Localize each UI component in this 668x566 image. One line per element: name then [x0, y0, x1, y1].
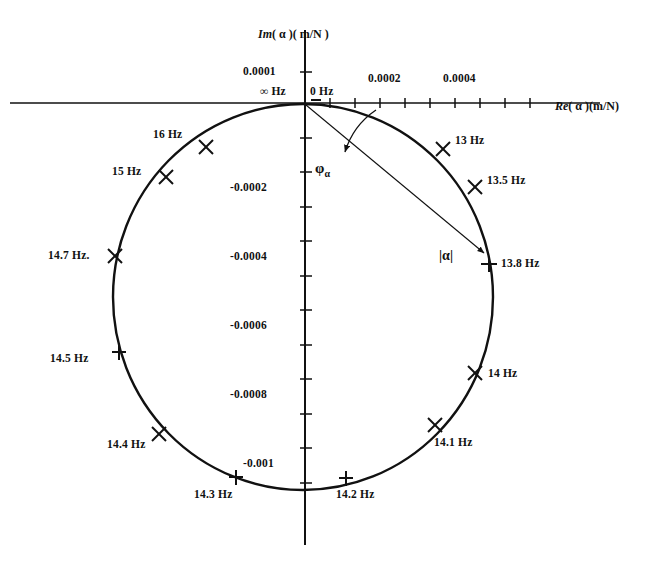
figure-canvas: Im( α )( m/N ) Re( α )(m/N) 0.0001 -0.00…: [0, 0, 668, 566]
re-axis-paren: ( α ): [568, 99, 589, 113]
imaginary-axis: [300, 30, 312, 545]
phase-phi-symbol: φ: [315, 160, 324, 176]
im-axis-units: ( m/N ): [293, 27, 329, 41]
im-axis-italic: Im: [258, 27, 272, 41]
frequency-tick-marks: [108, 100, 497, 486]
infinite-frequency-label: ∞ Hz: [260, 86, 286, 98]
zero-frequency-label: 0 Hz: [310, 86, 333, 98]
nyquist-plot-svg: [0, 0, 668, 566]
freq-label-135hz: 13.5 Hz: [487, 175, 525, 187]
re-axis-italic: Re: [555, 99, 568, 113]
real-axis-title: Re( α )(m/N): [555, 99, 619, 114]
phase-angle-label: φα: [315, 160, 330, 179]
freq-label-138hz: 13.8 Hz: [501, 258, 539, 270]
freq-label-143hz: 14.3 Hz: [194, 489, 232, 501]
freq-label-16hz: 16 Hz: [153, 129, 182, 141]
freq-label-141hz: 14.1 Hz: [434, 437, 472, 449]
freq-label-144hz: 14.4 Hz: [107, 439, 145, 451]
y-tick-label-5: -0.001: [243, 458, 274, 470]
re-axis-units: (m/N): [589, 99, 619, 113]
x-tick-label-1: 0.0004: [443, 73, 476, 85]
freq-label-147hz: 14.7 Hz.: [48, 250, 90, 262]
freq-label-13hz: 13 Hz: [455, 135, 484, 147]
y-tick-label-2: -0.0004: [230, 251, 267, 263]
x-tick-label-0: 0.0002: [368, 73, 401, 85]
y-tick-label-0: 0.0001: [243, 66, 276, 78]
im-axis-paren: ( α ): [272, 27, 293, 41]
freq-label-14hz: 14 Hz: [488, 368, 517, 380]
receptance-circle: [113, 104, 493, 490]
y-tick-label-1: -0.0002: [230, 182, 267, 194]
freq-label-145hz: 14.5 Hz: [50, 353, 88, 365]
freq-label-15hz: 15 Hz: [112, 166, 141, 178]
y-tick-label-4: -0.0008: [230, 389, 267, 401]
y-tick-label-3: -0.0006: [230, 320, 267, 332]
imaginary-axis-title: Im( α )( m/N ): [258, 27, 329, 42]
phase-alpha-subscript: α: [324, 168, 330, 179]
freq-label-142hz: 14.2 Hz: [336, 489, 374, 501]
magnitude-label: |α|: [439, 248, 453, 264]
